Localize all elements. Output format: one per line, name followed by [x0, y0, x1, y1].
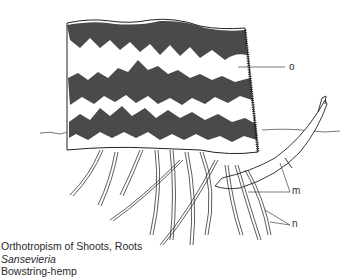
label-o: o [289, 61, 295, 72]
roots [70, 150, 271, 245]
caption-title: Orthotropism of Shoots, Roots [1, 240, 142, 253]
leaf-section [67, 19, 258, 153]
label-m: m [292, 185, 300, 196]
figure-caption: Orthotropism of Shoots, Roots Sansevieri… [1, 240, 142, 278]
plant-illustration [0, 0, 351, 279]
caption-common-name: Bowstring-hemp [1, 265, 142, 278]
caption-genus: Sansevieria [1, 253, 142, 266]
label-n: n [292, 218, 298, 229]
